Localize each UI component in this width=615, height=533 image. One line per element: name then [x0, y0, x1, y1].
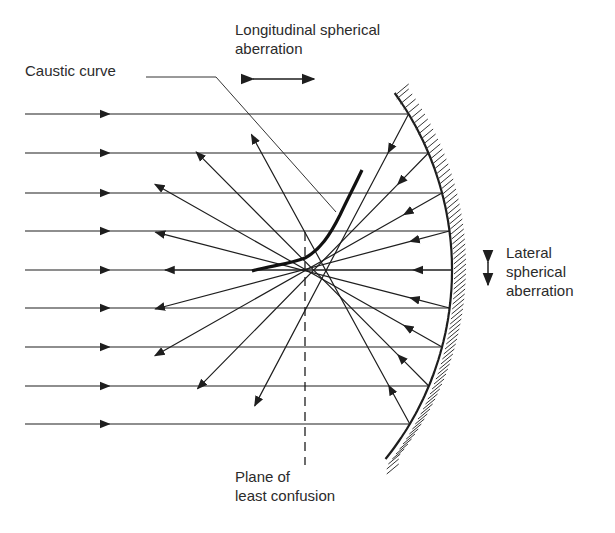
- caustic-leader-line: [146, 77, 336, 212]
- concave-mirror: [386, 84, 466, 474]
- lateral-aberration-label: Lateral spherical aberration: [506, 243, 574, 300]
- plane-of-least-confusion-label: Plane of least confusion: [235, 467, 335, 505]
- longitudinal-aberration-label: Longitudinal spherical aberration: [235, 20, 380, 58]
- light-rays: [25, 114, 452, 424]
- caustic-curve-label: Caustic curve: [25, 61, 116, 80]
- caustic-curve: [252, 170, 362, 271]
